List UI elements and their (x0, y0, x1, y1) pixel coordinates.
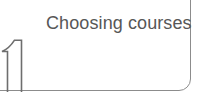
slide-card: Choosing courses (0, 0, 205, 92)
step-number-one-outline (0, 38, 44, 92)
card-title: Choosing courses (46, 12, 192, 34)
